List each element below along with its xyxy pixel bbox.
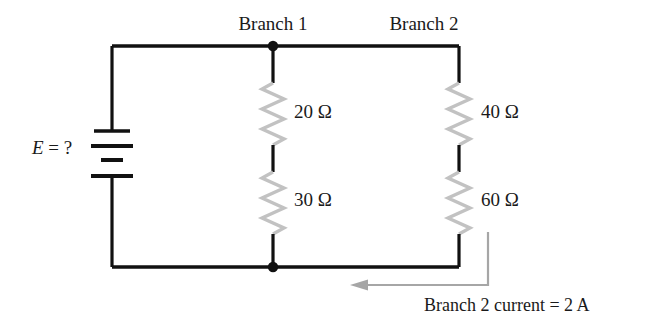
resistor-20-ohm-label: 20 Ω — [294, 102, 332, 121]
branch-2-title: Branch 2 — [389, 14, 458, 33]
resistor-30-ohm-zigzag — [262, 172, 284, 234]
branch-2-current-annotation: Branch 2 current = 2 A — [424, 296, 590, 314]
junction-node-top — [268, 41, 278, 51]
emf-source-label: E = ? — [32, 138, 72, 157]
current-direction-arrow-left-icon — [350, 232, 488, 291]
resistor-60-ohm-label: 60 Ω — [481, 190, 519, 209]
circuit-diagram: Branch 1 Branch 2 E = ? 20 Ω 30 Ω 40 Ω 6… — [0, 0, 664, 329]
emf-value: = ? — [44, 137, 73, 158]
junction-node-bottom — [268, 262, 278, 272]
arrow-head — [350, 280, 368, 291]
resistor-30-ohm-label: 30 Ω — [294, 190, 332, 209]
battery-symbol — [91, 131, 133, 176]
resistor-40-ohm-label: 40 Ω — [481, 102, 519, 121]
resistor-40-ohm-zigzag — [448, 83, 470, 145]
circuit-schematic-svg — [0, 0, 664, 329]
arrow-shaft — [365, 232, 488, 285]
resistor-20-ohm-zigzag — [262, 83, 284, 145]
resistor-60-ohm-zigzag — [448, 172, 470, 234]
branch-1-title: Branch 1 — [238, 14, 307, 33]
emf-symbol: E — [32, 137, 44, 158]
